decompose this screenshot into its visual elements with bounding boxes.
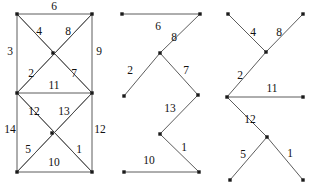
graph-edge bbox=[227, 52, 266, 97]
edge-weight-label: 8 bbox=[276, 26, 282, 38]
edge-weight-label: 8 bbox=[171, 31, 177, 43]
graph-vertex bbox=[196, 93, 199, 96]
graph-edge bbox=[266, 14, 303, 52]
edge-weight-label: 14 bbox=[4, 123, 16, 135]
edge-weight-label: 10 bbox=[143, 154, 155, 166]
edge-weight-label: 12 bbox=[244, 113, 256, 125]
graph-vertex bbox=[228, 178, 231, 181]
graph-vertex bbox=[120, 12, 123, 15]
graph-vertex bbox=[264, 50, 267, 53]
graph-edge bbox=[160, 134, 199, 172]
graph-vertex bbox=[301, 95, 304, 98]
graph-vertex bbox=[122, 94, 125, 97]
edge-weight-label: 7 bbox=[71, 67, 77, 79]
edge-weight-labels-layer: 639482711121314125110682713110482111251 bbox=[4, 0, 293, 168]
edge-weight-label: 6 bbox=[51, 0, 57, 12]
edge-weight-label: 8 bbox=[65, 25, 71, 37]
edge-weight-label: 5 bbox=[25, 143, 31, 155]
graph-diagram-svg: 639482711121314125110682713110482111251 bbox=[0, 0, 318, 189]
edge-weight-label: 12 bbox=[94, 123, 106, 135]
edge-weight-label: 5 bbox=[240, 148, 246, 160]
graph-vertex bbox=[51, 51, 54, 54]
graph-vertex bbox=[198, 12, 201, 15]
graph-vertex bbox=[122, 170, 125, 173]
graph-vertex bbox=[90, 91, 93, 94]
edge-weight-label: 1 bbox=[76, 143, 82, 155]
graph-edge bbox=[230, 137, 267, 180]
edge-weight-label: 2 bbox=[127, 64, 133, 76]
edge-weight-label: 2 bbox=[237, 69, 243, 81]
edge-weight-label: 4 bbox=[36, 25, 42, 37]
graph-vertex bbox=[301, 12, 304, 15]
graph-edge bbox=[267, 137, 303, 180]
graph-vertex bbox=[15, 91, 18, 94]
graph-vertex bbox=[226, 12, 229, 15]
edge-weight-label: 13 bbox=[164, 102, 176, 114]
edge-weight-label: 13 bbox=[58, 105, 70, 117]
edges-layer bbox=[17, 14, 303, 180]
edge-weight-label: 10 bbox=[48, 156, 60, 168]
edge-weight-label: 3 bbox=[7, 45, 13, 57]
edge-weight-label: 12 bbox=[28, 105, 40, 117]
graph-vertex bbox=[225, 95, 228, 98]
graph-vertex bbox=[158, 132, 161, 135]
edge-weight-label: 1 bbox=[287, 147, 293, 159]
diagram-canvas: 639482711121314125110682713110482111251 bbox=[0, 0, 318, 189]
graph-vertex bbox=[301, 178, 304, 181]
edge-weight-label: 7 bbox=[183, 64, 189, 76]
graph-vertex bbox=[265, 135, 268, 138]
graph-vertex bbox=[197, 170, 200, 173]
edge-weight-label: 6 bbox=[155, 20, 161, 32]
edge-weight-label: 4 bbox=[250, 26, 256, 38]
graph-vertex bbox=[50, 131, 53, 134]
graph-vertex bbox=[15, 170, 18, 173]
edge-weight-label: 11 bbox=[266, 82, 277, 94]
edge-weight-label: 11 bbox=[48, 79, 59, 91]
graph-vertex bbox=[90, 12, 93, 15]
graph-vertex bbox=[15, 12, 18, 15]
graph-edge bbox=[228, 14, 266, 52]
graph-vertex bbox=[90, 170, 93, 173]
edge-weight-label: 1 bbox=[181, 141, 187, 153]
graph-edge bbox=[160, 53, 198, 95]
graph-vertex bbox=[158, 51, 161, 54]
graph-edge bbox=[160, 14, 200, 53]
edge-weight-label: 9 bbox=[96, 45, 102, 57]
edge-weight-label: 2 bbox=[28, 67, 34, 79]
